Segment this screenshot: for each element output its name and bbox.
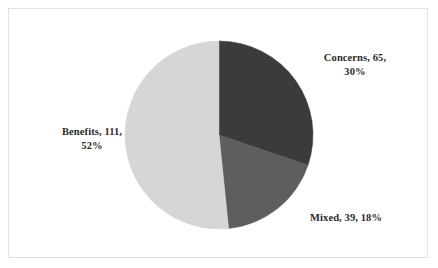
data-label-mixed: Mixed, 39, 18% (276, 211, 416, 225)
data-label-mixed-line1: Mixed, 39, 18% (276, 211, 416, 225)
data-label-benefits-line1: Benefits, 111, (32, 125, 152, 139)
data-label-concerns: Concerns, 65, 30% (290, 51, 420, 78)
data-label-concerns-line1: Concerns, 65, (290, 51, 420, 65)
data-label-benefits: Benefits, 111, 52% (32, 125, 152, 152)
pie-chart-figure: Concerns, 65, 30% Benefits, 111, 52% Mix… (0, 0, 438, 268)
pie-slices (125, 41, 313, 229)
data-label-concerns-line2: 30% (290, 65, 420, 79)
pie-plot-area: Concerns, 65, 30% Benefits, 111, 52% Mix… (0, 0, 438, 268)
data-label-benefits-line2: 52% (32, 139, 152, 153)
